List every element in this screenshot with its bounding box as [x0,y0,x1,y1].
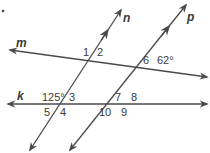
parallel-marker-n [101,33,106,41]
label-k: k [17,89,25,103]
angle-4: 4 [60,106,66,118]
angle-2: 2 [97,46,103,58]
parallel-lines-diagram: m k n p 1 2 6 62° 125° 3 5 4 7 8 10 9 [0,0,210,153]
angle-7: 7 [115,91,121,103]
label-n: n [123,11,130,25]
angle-8: 8 [131,91,137,103]
label-m: m [16,36,27,50]
problem-marker-dot [2,10,5,13]
angle-5: 5 [44,106,50,118]
angle-9: 9 [121,106,127,118]
line-m [10,50,207,77]
line-p [70,5,186,150]
angle-3: 3 [69,91,75,103]
angle-10: 10 [99,106,111,118]
angle-125-degrees: 125° [42,91,65,103]
line-n [30,10,121,150]
label-p: p [186,10,194,24]
angle-1: 1 [83,46,89,58]
parallel-marker-p [161,29,167,37]
angle-62-degrees: 62° [157,54,174,66]
angle-6: 6 [143,54,149,66]
